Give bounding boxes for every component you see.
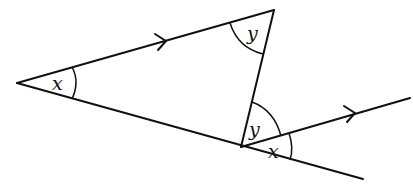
angle-label-c-upper: y [248,118,260,140]
line-ac-extended [17,83,363,179]
angle-label-c-lower: x [268,140,279,162]
angle-arc-c-lower [289,133,292,160]
angle-label-b: y [246,22,258,44]
parallel-arrow-icon [344,106,355,122]
geometry-diagram: x y y x [0,0,413,191]
parallel-ray [241,98,410,147]
angle-label-a: x [52,72,63,94]
angle-arc-a [72,67,76,99]
